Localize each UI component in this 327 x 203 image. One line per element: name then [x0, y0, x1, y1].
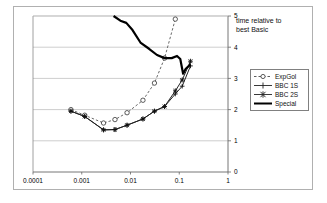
legend-item-bbc-1s: BBC 1S [253, 81, 306, 90]
y-tick-label: 1 [234, 137, 238, 144]
x-axis-tick-labels: 0.00010.0010.010.11 [23, 177, 230, 184]
chart-legend: ExpGol BBC 1S BBC 2S Special [250, 69, 309, 111]
data-series-group [69, 16, 193, 132]
dashed-circle-key-icon [253, 72, 273, 81]
y-tick-label: 0 [234, 168, 238, 175]
chart-title-line-2: best Basic [236, 25, 322, 34]
gridlines-group [33, 16, 228, 141]
series-expgol [69, 17, 178, 125]
x-tick-label: 0.0001 [23, 177, 43, 184]
legend-item-bbc-2s: BBC 2S [253, 90, 306, 99]
y-tick-label: 3 [234, 75, 238, 82]
x-tick-label: 0.001 [74, 177, 91, 184]
solid-plus-key-icon [253, 81, 273, 90]
y-axis-tick-labels: 012345 [234, 12, 238, 175]
chart-title-line-1: time relative to [236, 16, 322, 25]
x-tick-label: 0.01 [124, 177, 137, 184]
axis-lines-group [33, 16, 228, 172]
y-tick-label: 2 [234, 106, 238, 113]
legend-label-bbc-2s: BBC 2S [273, 91, 298, 98]
x-tick-label: 0.1 [175, 177, 184, 184]
legend-label-special: Special [273, 100, 296, 107]
solid-star-key-icon [253, 90, 273, 99]
legend-item-expgol: ExpGol [253, 72, 306, 81]
series-bbc-1s [69, 64, 193, 133]
thick-solid-key-icon [253, 99, 273, 108]
tick-marks-group [33, 16, 231, 175]
chart-title: time relative to best Basic [236, 16, 322, 34]
legend-label-bbc-1s: BBC 1S [273, 82, 298, 89]
x-tick-label: 1 [226, 177, 230, 184]
legend-item-special: Special [253, 99, 306, 108]
chart-screenshot: 0.00010.0010.010.11 012345 time relative… [0, 0, 327, 203]
series-special [114, 16, 191, 74]
legend-label-expgol: ExpGol [273, 73, 296, 80]
y-tick-label: 4 [234, 44, 238, 51]
